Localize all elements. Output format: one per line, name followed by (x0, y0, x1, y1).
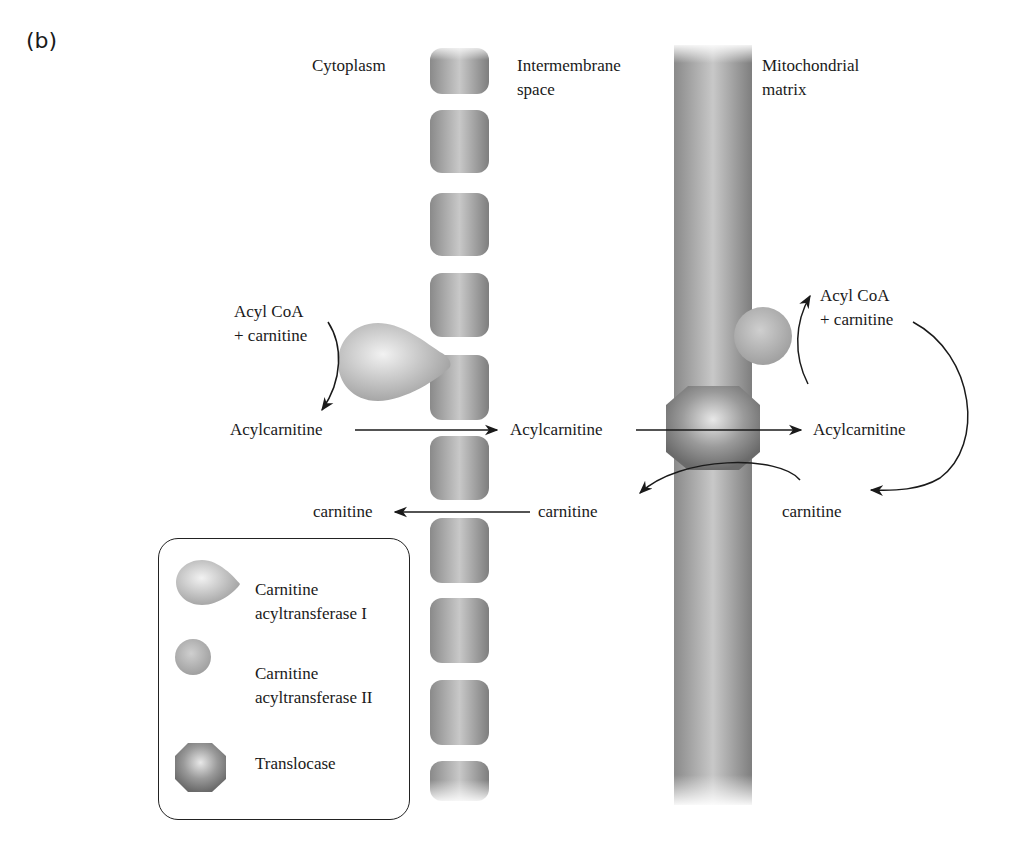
carnitine-matrix: carnitine (782, 502, 841, 522)
intermembrane-label-line1: Intermembrane (517, 56, 621, 76)
translocase (666, 386, 760, 470)
teardrop-icon (176, 560, 240, 605)
matrix-label-line1: Mitochondrial (762, 56, 859, 76)
legend-icons (174, 559, 254, 799)
cytoplasm-label: Cytoplasm (312, 56, 386, 76)
carnitine-acyltransferase-ii (734, 307, 792, 365)
outer-membrane (425, 44, 495, 804)
carnitine-cytoplasm: carnitine (313, 502, 372, 522)
acyl-coa-right-line1: Acyl CoA (820, 286, 889, 306)
acylcarnitine-cytoplasm: Acylcarnitine (230, 420, 323, 440)
acyl-coa-left-line2: + carnitine (234, 326, 307, 346)
acylcarnitine-matrix: Acylcarnitine (813, 420, 906, 440)
legend-item-2-line2: acyltransferase II (255, 688, 373, 708)
acyl-coa-right-line2: + carnitine (820, 310, 893, 330)
legend-item-1-line2: acyltransferase I (255, 604, 367, 624)
legend-item-1-line1: Carnitine (255, 580, 318, 600)
legend-item-2-line1: Carnitine (255, 664, 318, 684)
matrix-label-line2: matrix (762, 80, 806, 100)
legend-box: Carnitine acyltransferase I Carnitine ac… (158, 538, 410, 820)
octagon-icon (175, 743, 226, 792)
acylcarnitine-intermembrane: Acylcarnitine (510, 420, 603, 440)
intermembrane-label-line2: space (517, 80, 555, 100)
acyl-coa-left-line1: Acyl CoA (234, 302, 303, 322)
legend-item-3-line1: Translocase (255, 754, 336, 774)
carnitine-intermembrane: carnitine (538, 502, 597, 522)
sphere-icon (175, 639, 211, 675)
